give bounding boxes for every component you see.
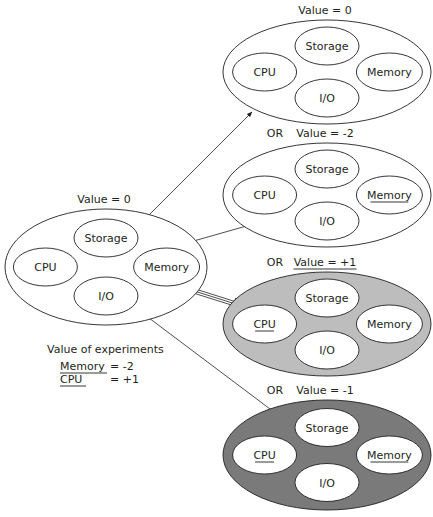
outcome-3-component-cpu: CPU — [233, 305, 297, 343]
outcome-4-component-storage: Storage — [295, 409, 359, 447]
component-label: CPU — [253, 449, 275, 462]
legend-row-memory-value: = -2 — [110, 360, 134, 373]
outcome-4-component-memory: Memory — [356, 436, 422, 474]
component-label: CPU — [253, 318, 275, 331]
legend-title: Value of experiments — [47, 343, 164, 356]
source-component-storage: Storage — [74, 219, 138, 257]
legend-row-cpu-name: CPU — [60, 373, 82, 386]
outcome-4: ORValue = -1StorageCPUMemoryI/O — [223, 384, 431, 510]
diagram-canvas: Value = 0 StorageCPUMemoryI/O Value = 0S… — [0, 0, 433, 517]
component-label: CPU — [253, 66, 275, 79]
component-label: Storage — [305, 292, 348, 305]
legend-row-cpu-value: = +1 — [110, 373, 139, 386]
component-label: CPU — [253, 189, 275, 202]
component-label: Memory — [367, 318, 412, 331]
outcome-2-component-i-o: I/O — [295, 202, 359, 240]
outcome-1-component-cpu: CPU — [233, 53, 297, 91]
or-label: OR — [267, 384, 284, 397]
component-label: Storage — [305, 422, 348, 435]
source-component-cpu: CPU — [13, 248, 77, 286]
component-label: CPU — [34, 261, 56, 274]
outcome-1: Value = 0StorageCPUMemoryI/O — [223, 4, 431, 124]
outcome-1-component-storage: Storage — [295, 27, 359, 65]
source-value-label: Value = 0 — [77, 193, 130, 206]
outcome-value-label: Value = -1 — [296, 384, 353, 397]
outcome-value-label: Value = +1 — [294, 256, 357, 269]
outcome-2-component-storage: Storage — [295, 150, 359, 188]
component-label: Storage — [305, 40, 348, 53]
outcome-3-component-memory: Memory — [356, 305, 422, 343]
component-label: Storage — [84, 232, 127, 245]
outcome-1-component-memory: Memory — [356, 53, 422, 91]
outcome-2: ORValue = -2StorageCPUMemoryI/O — [223, 127, 431, 247]
component-label: I/O — [319, 477, 335, 490]
outcome-configurations: Value = 0StorageCPUMemoryI/OORValue = -2… — [223, 4, 431, 510]
experiment-value-diagram: Value = 0 StorageCPUMemoryI/O Value = 0S… — [0, 0, 433, 517]
outcome-4-component-cpu: CPU — [233, 436, 297, 474]
legend-row-memory-name: Memory — [60, 360, 105, 373]
source-component-i-o: I/O — [74, 277, 138, 315]
outcome-3-component-storage: Storage — [295, 279, 359, 317]
component-label: Memory — [144, 261, 189, 274]
component-label: Memory — [367, 189, 412, 202]
component-label: I/O — [319, 344, 335, 357]
outcome-3: ORValue = +1StorageCPUMemoryI/O — [223, 256, 431, 376]
outcome-2-component-cpu: CPU — [233, 176, 297, 214]
outcome-3-component-i-o: I/O — [295, 331, 359, 369]
component-label: I/O — [319, 215, 335, 228]
source-configuration: Value = 0 StorageCPUMemoryI/O — [5, 193, 207, 325]
outcome-4-component-i-o: I/O — [295, 464, 359, 502]
experiment-values-legend: Value of experiments Memory = -2 CPU = +… — [47, 343, 164, 386]
or-label: OR — [267, 256, 284, 269]
outcome-1-component-i-o: I/O — [295, 79, 359, 117]
source-component-memory: Memory — [134, 248, 200, 286]
component-label: Storage — [305, 163, 348, 176]
component-label: I/O — [98, 290, 114, 303]
outcome-value-label: Value = 0 — [298, 4, 351, 17]
outcome-2-component-memory: Memory — [356, 176, 422, 214]
component-label: Memory — [367, 66, 412, 79]
outcome-value-label: Value = -2 — [296, 127, 353, 140]
component-label: I/O — [319, 92, 335, 105]
component-label: Memory — [367, 449, 412, 462]
or-label: OR — [267, 127, 284, 140]
